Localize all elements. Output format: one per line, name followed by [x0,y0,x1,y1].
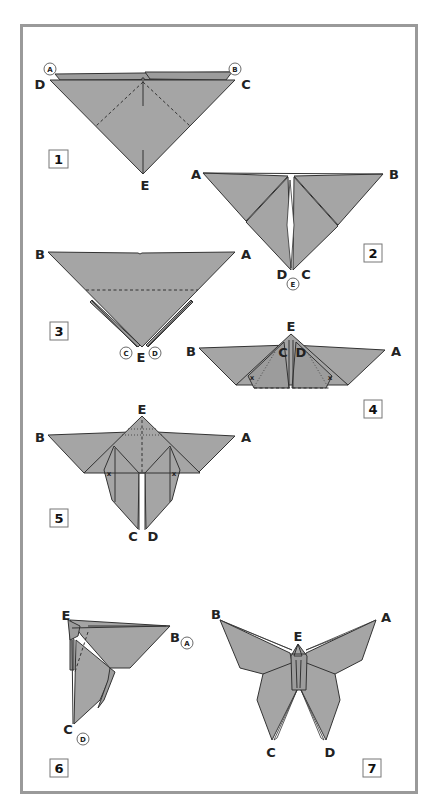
label-e: E [141,178,150,193]
step-number: 6 [54,761,63,776]
label-c: C [266,745,276,760]
label-a: A [191,167,201,182]
label-a: A [381,610,391,625]
step-number: 5 [54,511,63,526]
step-number: 1 [54,152,63,167]
label-d-circled: D [80,736,86,744]
step-number: 4 [368,402,377,417]
label-c: C [278,345,288,360]
step-5: x x E B A C D 5 [35,402,251,544]
step-number: 3 [54,324,63,339]
label-a-circled: A [184,640,190,648]
label-e-circled: E [291,281,296,289]
label-d: D [277,267,288,282]
label-b: B [389,167,399,182]
label-a: A [241,247,251,262]
label-a: A [391,344,401,359]
label-a-circled: A [47,66,53,74]
label-b: B [170,630,180,645]
step-number: 7 [367,761,376,776]
label-e: E [294,629,303,644]
label-b: B [211,607,221,622]
label-b-circled: B [232,66,237,74]
svg-text:x: x [250,374,255,382]
label-d: D [35,77,46,92]
svg-text:x: x [172,470,177,478]
label-c: C [63,722,73,737]
label-e: E [138,402,147,417]
label-d: D [296,345,307,360]
label-b: B [35,430,45,445]
origami-diagram: A B D C E 1 A B D C E 2 B A C E [0,0,434,809]
label-d: D [325,745,336,760]
svg-text:x: x [328,374,333,382]
label-c: C [301,267,311,282]
step-4: x x E B A C D 4 [186,319,401,418]
lower-left-wing [257,662,297,740]
label-e: E [287,319,296,334]
label-b: B [35,247,45,262]
svg-text:x: x [107,470,112,478]
step-2: A B D C E 2 [191,167,399,290]
label-e: E [62,608,71,623]
label-c-circled: C [123,350,128,358]
label-b: B [186,344,196,359]
label-a: A [241,430,251,445]
step-7: B A E C D 7 [211,607,391,777]
label-c: C [128,529,138,544]
label-e: E [137,350,146,365]
label-d-circled: D [152,350,158,358]
step-number: 2 [368,246,377,261]
step3-triangle [48,252,235,347]
label-c: C [241,77,251,92]
step-6: E B A C D 6 [50,608,193,777]
back-flap-right [145,72,232,80]
label-d: D [148,529,159,544]
